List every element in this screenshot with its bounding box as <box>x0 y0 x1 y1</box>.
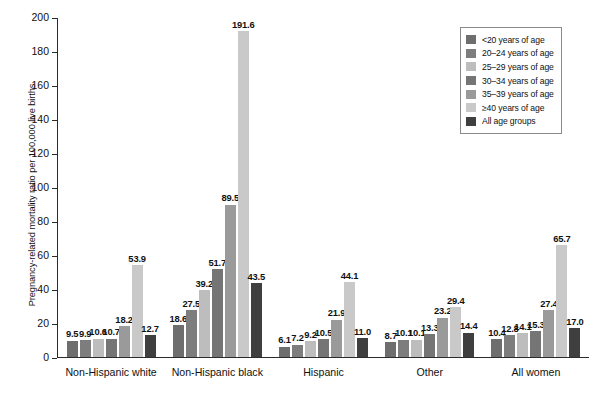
bar[interactable]: 14.1 <box>517 333 528 357</box>
legend-item[interactable]: <20 years of age <box>466 33 554 47</box>
bar[interactable]: 9.2 <box>305 341 316 357</box>
bar[interactable]: 10.7 <box>106 339 117 357</box>
bar-value-label: 43.5 <box>248 271 265 282</box>
bar[interactable]: 10.1 <box>398 340 409 357</box>
bar[interactable]: 9.5 <box>67 341 78 357</box>
bar-chart: Pregnancy-related mortality ratio per 10… <box>0 0 597 400</box>
bar-slot: 18.2 <box>118 18 131 357</box>
legend-item-label: 20–24 years of age <box>482 48 554 58</box>
bar[interactable]: 29.4 <box>450 307 461 357</box>
y-axis-tick-label: 80 <box>37 215 49 227</box>
legend-swatch <box>466 103 476 112</box>
legend-item-label: All age groups <box>482 116 536 126</box>
bar[interactable]: 23.2 <box>437 318 448 357</box>
bar[interactable]: 21.9 <box>331 320 342 357</box>
bar-slot: 10.7 <box>105 18 118 357</box>
bar-slot: 44.1 <box>343 18 356 357</box>
bar-slot: 10.1 <box>397 18 410 357</box>
bar-value-label: 11.0 <box>354 326 371 337</box>
bar[interactable]: 39.2 <box>199 290 210 357</box>
bar[interactable]: 53.9 <box>132 265 143 357</box>
x-axis-category-label: Hispanic <box>270 366 376 378</box>
bar[interactable]: 12.8 <box>504 335 515 357</box>
bar-group: 6.17.29.210.521.944.111.0 <box>270 18 376 357</box>
bar-slot: 89.5 <box>224 18 237 357</box>
y-axis-tick-mark <box>52 358 57 359</box>
legend-swatch <box>466 49 476 58</box>
bar-value-label: 7.2 <box>291 332 303 343</box>
bar-slot: 27.5 <box>185 18 198 357</box>
bar-slot: 51.7 <box>211 18 224 357</box>
bar[interactable]: 191.6 <box>238 31 249 357</box>
bar-slot: 7.2 <box>291 18 304 357</box>
bar-slot: 6.1 <box>278 18 291 357</box>
bar-slot: 191.6 <box>237 18 250 357</box>
y-axis-tick-label: 20 <box>37 317 49 329</box>
bar-value-label: 6.1 <box>278 334 290 345</box>
y-axis-tick-mark <box>52 324 57 325</box>
bar[interactable]: 10.1 <box>411 340 422 357</box>
bar-slot: 10.1 <box>410 18 423 357</box>
y-axis-tick-label: 160 <box>31 79 49 91</box>
bar-slot: 12.7 <box>144 18 157 357</box>
bar-slot: 23.2 <box>436 18 449 357</box>
bar-slot: 43.5 <box>250 18 263 357</box>
bar[interactable]: 8.7 <box>385 342 396 357</box>
bar-slot: 9.5 <box>66 18 79 357</box>
legend-item[interactable]: 20–24 years of age <box>466 47 554 61</box>
bar[interactable]: 27.5 <box>186 310 197 357</box>
x-axis-line <box>57 357 589 358</box>
bar[interactable]: 44.1 <box>344 282 355 357</box>
bar[interactable]: 15.3 <box>530 331 541 357</box>
y-axis-tick-mark <box>52 256 57 257</box>
bar-slot: 10.6 <box>92 18 105 357</box>
bar-group: 18.627.539.251.789.5191.643.5 <box>164 18 270 357</box>
bar[interactable]: 18.6 <box>173 325 184 357</box>
bar-slot: 39.2 <box>198 18 211 357</box>
bar[interactable]: 13.3 <box>424 334 435 357</box>
bar[interactable]: 43.5 <box>251 283 262 357</box>
bar-slot: 11.0 <box>356 18 369 357</box>
y-axis-tick-mark <box>52 18 57 19</box>
legend-item[interactable]: 30–34 years of age <box>466 74 554 88</box>
y-axis-tick-mark <box>52 120 57 121</box>
bar[interactable]: 11.0 <box>357 338 368 357</box>
bar-value-label: 9.5 <box>66 328 78 339</box>
bar-slot: 9.2 <box>304 18 317 357</box>
bar-slot: 10.5 <box>317 18 330 357</box>
bar[interactable]: 14.4 <box>463 333 474 357</box>
bar[interactable]: 89.5 <box>225 205 236 357</box>
y-axis-tick-mark <box>52 290 57 291</box>
bar[interactable]: 17.0 <box>569 328 580 357</box>
y-axis-tick-label: 120 <box>31 147 49 159</box>
legend-item[interactable]: ≥40 years of age <box>466 101 554 115</box>
bar[interactable]: 51.7 <box>212 269 223 357</box>
bar[interactable]: 18.2 <box>119 326 130 357</box>
bar[interactable]: 7.2 <box>292 345 303 357</box>
bar[interactable]: 10.4 <box>491 339 502 357</box>
x-axis-category-label: All women <box>483 366 589 378</box>
legend-item[interactable]: 35–39 years of age <box>466 87 554 101</box>
legend-item-label: 30–34 years of age <box>482 76 554 86</box>
x-axis-category-label: Non-Hispanic black <box>164 366 270 378</box>
bar[interactable]: 10.6 <box>93 339 104 357</box>
y-axis-tick-mark <box>52 86 57 87</box>
bar-slot: 53.9 <box>131 18 144 357</box>
x-axis-category-label: Other <box>377 366 483 378</box>
legend-swatch <box>466 76 476 85</box>
bar[interactable]: 6.1 <box>279 347 290 357</box>
x-axis-category-labels: Non-Hispanic whiteNon-Hispanic blackHisp… <box>58 366 589 378</box>
bar[interactable]: 65.7 <box>556 245 567 357</box>
legend-item[interactable]: 25–29 years of age <box>466 60 554 74</box>
legend-item[interactable]: All age groups <box>466 115 554 129</box>
bar[interactable]: 10.5 <box>318 339 329 357</box>
y-axis-tick-label: 180 <box>31 45 49 57</box>
y-axis-tick-label: 140 <box>31 113 49 125</box>
y-axis-tick-label: 200 <box>31 11 49 23</box>
chart-legend: <20 years of age20–24 years of age25–29 … <box>460 27 562 134</box>
legend-swatch <box>466 117 476 126</box>
x-axis-category-label: Non-Hispanic white <box>58 366 164 378</box>
bar[interactable]: 12.7 <box>145 335 156 357</box>
bar[interactable]: 9.9 <box>80 340 91 357</box>
bar[interactable]: 27.4 <box>543 310 554 357</box>
